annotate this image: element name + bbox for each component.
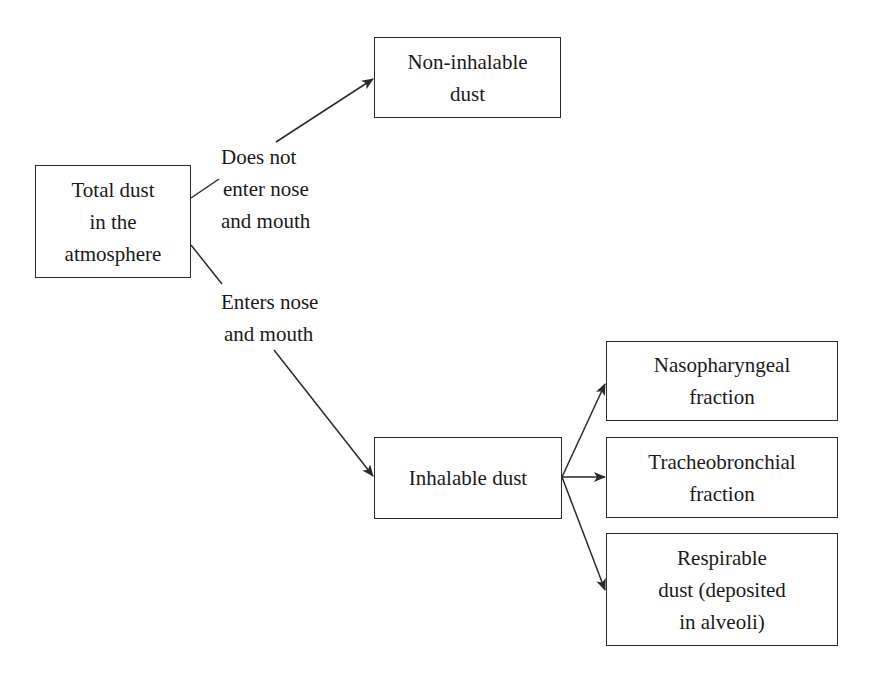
arrow-to-inhalable (274, 350, 373, 476)
node-nasopharyngeal-line-1: Nasopharyngeal (654, 349, 790, 381)
node-tracheobronchial-line-2: fraction (689, 478, 754, 510)
node-total-dust-line-2: in the (89, 206, 136, 238)
edge-label-enters-line-2: and mouth (221, 318, 318, 350)
node-non-inhalable-line-1: Non-inhalable (407, 46, 527, 78)
connector-total-to-label-does-not (191, 179, 219, 198)
node-total-dust: Total dust in the atmosphere (35, 165, 191, 278)
edge-label-enters: Enters nose and mouth (221, 286, 318, 350)
node-respirable-line-2: dust (deposited (658, 574, 786, 606)
node-non-inhalable-dust: Non-inhalable dust (374, 37, 561, 118)
node-tracheobronchial-fraction: Tracheobronchial fraction (606, 437, 838, 518)
node-tracheobronchial-line-1: Tracheobronchial (648, 446, 795, 478)
node-total-dust-line-3: atmosphere (65, 238, 162, 270)
node-nasopharyngeal-line-2: fraction (689, 381, 754, 413)
arrow-to-non-inhalable (276, 79, 373, 142)
arrow-to-respirable (562, 477, 605, 590)
node-non-inhalable-line-2: dust (450, 78, 485, 110)
node-inhalable-line-1: Inhalable dust (409, 462, 527, 494)
connector-total-to-label-enters (191, 245, 222, 284)
node-total-dust-line-1: Total dust (71, 174, 154, 206)
node-respirable-line-1: Respirable (677, 542, 767, 574)
node-inhalable-dust: Inhalable dust (374, 437, 562, 519)
node-respirable-dust: Respirable dust (deposited in alveoli) (606, 533, 838, 646)
edge-label-does-not-line-1: Does not (221, 141, 310, 173)
node-respirable-line-3: in alveoli) (679, 606, 765, 638)
arrow-to-nasopharyngeal (562, 384, 605, 477)
node-nasopharyngeal-fraction: Nasopharyngeal fraction (606, 341, 838, 421)
edge-label-does-not-enter: Does not enter nose and mouth (221, 141, 310, 237)
edge-label-does-not-line-2: enter nose (221, 173, 310, 205)
edge-label-does-not-line-3: and mouth (221, 205, 310, 237)
edge-label-enters-line-1: Enters nose (221, 286, 318, 318)
